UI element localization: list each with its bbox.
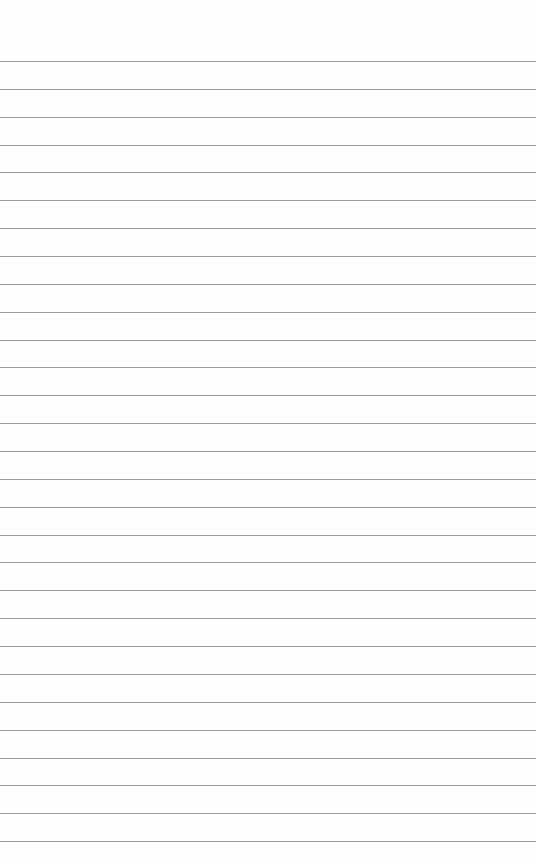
ruled-line [0, 145, 536, 146]
ruled-line [0, 89, 536, 90]
ruled-line [0, 646, 536, 647]
ruled-line [0, 702, 536, 703]
ruled-line [0, 423, 536, 424]
ruled-line [0, 841, 536, 842]
ruled-line [0, 172, 536, 173]
ruled-line [0, 451, 536, 452]
ruled-line [0, 674, 536, 675]
ruled-line [0, 312, 536, 313]
ruled-line [0, 228, 536, 229]
ruled-line [0, 507, 536, 508]
ruled-line [0, 562, 536, 563]
ruled-line [0, 535, 536, 536]
ruled-line [0, 758, 536, 759]
ruled-line [0, 730, 536, 731]
ruled-line [0, 479, 536, 480]
ruled-line [0, 813, 536, 814]
ruled-line [0, 61, 536, 62]
ruled-line [0, 200, 536, 201]
ruled-line [0, 256, 536, 257]
ruled-line [0, 395, 536, 396]
ruled-line [0, 367, 536, 368]
ruled-line [0, 284, 536, 285]
lined-paper-page [0, 0, 536, 866]
ruled-line [0, 340, 536, 341]
ruled-line [0, 785, 536, 786]
ruled-line [0, 618, 536, 619]
ruled-line [0, 590, 536, 591]
ruled-line [0, 117, 536, 118]
